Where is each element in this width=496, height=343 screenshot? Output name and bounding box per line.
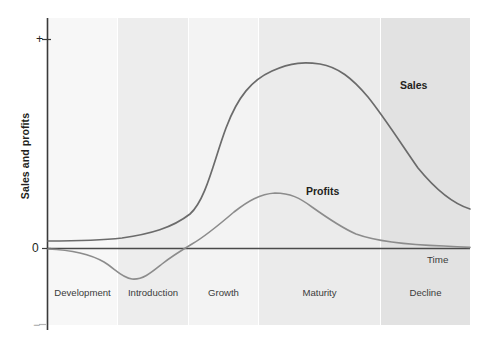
y-axis-tick-zero: 0 xyxy=(32,242,39,254)
product-life-cycle-chart: + 0 − Sales and profits Development Intr… xyxy=(0,0,496,343)
y-axis-title: Sales and profits xyxy=(19,86,31,226)
stage-label-maturity: Maturity xyxy=(259,287,380,298)
band-decline xyxy=(381,18,470,325)
series-label-sales: Sales xyxy=(400,79,427,91)
y-axis-tick-minus: − xyxy=(33,319,40,331)
stage-label-growth: Growth xyxy=(189,287,258,298)
y-axis-tick-plus: + xyxy=(36,33,43,45)
stage-label-introduction: Introduction xyxy=(118,287,188,298)
x-axis-title: Time xyxy=(427,254,448,265)
stage-bands xyxy=(48,18,470,325)
band-development xyxy=(48,18,117,325)
band-growth xyxy=(189,18,258,325)
stage-label-development: Development xyxy=(48,287,117,298)
stage-label-decline: Decline xyxy=(381,287,470,298)
series-label-profits: Profits xyxy=(306,185,339,197)
